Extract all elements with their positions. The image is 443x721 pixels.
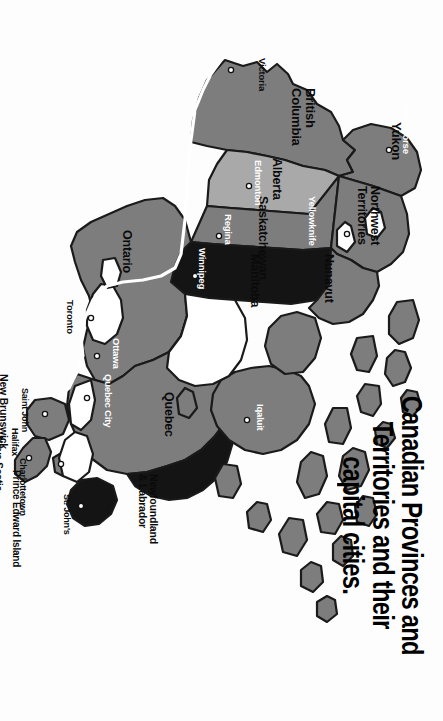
dot-yellowknife: [344, 231, 349, 236]
dot-iqaluit: [244, 417, 249, 422]
region-new-brunswick[interactable]: [27, 398, 69, 440]
title-line-3: capital cities.: [339, 358, 368, 692]
dot-st-johns: [78, 503, 83, 508]
dot-saint-john: [42, 411, 47, 416]
title-line-2: Territories and their: [369, 358, 398, 692]
water-great-bear-lake: [365, 208, 385, 238]
dot-edmonton: [246, 183, 251, 188]
dot-ottawa: [94, 353, 99, 358]
dot-victoria: [228, 67, 233, 72]
dot-toronto: [88, 315, 93, 320]
page-title: Canadian Provinces and Territories and t…: [339, 358, 427, 692]
map-poster: Yukon Northwest Territories Nunavut Brit…: [0, 0, 443, 721]
dot-regina: [216, 233, 221, 238]
dot-charlottetown: [58, 461, 63, 466]
map-stage: Yukon Northwest Territories Nunavut Brit…: [0, 0, 443, 721]
dot-winnipeg: [192, 273, 197, 278]
dot-quebec-city: [84, 395, 89, 400]
dot-whitehorse: [386, 147, 391, 152]
dot-halifax: [26, 455, 31, 460]
title-line-1: Canadian Provinces and: [398, 358, 427, 692]
